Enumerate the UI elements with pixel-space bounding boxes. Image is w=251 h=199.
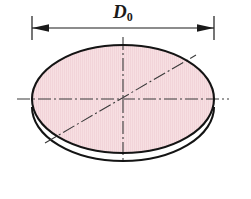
arrowhead-left-icon	[32, 24, 49, 32]
dimension-label-d0: D0	[113, 2, 133, 21]
technical-drawing-figure: D0	[0, 0, 251, 199]
dimension-subscript: 0	[127, 10, 133, 24]
dimension-symbol: D	[113, 1, 127, 22]
disc-drawing-canvas	[0, 0, 251, 199]
arrowhead-right-icon	[197, 24, 214, 32]
